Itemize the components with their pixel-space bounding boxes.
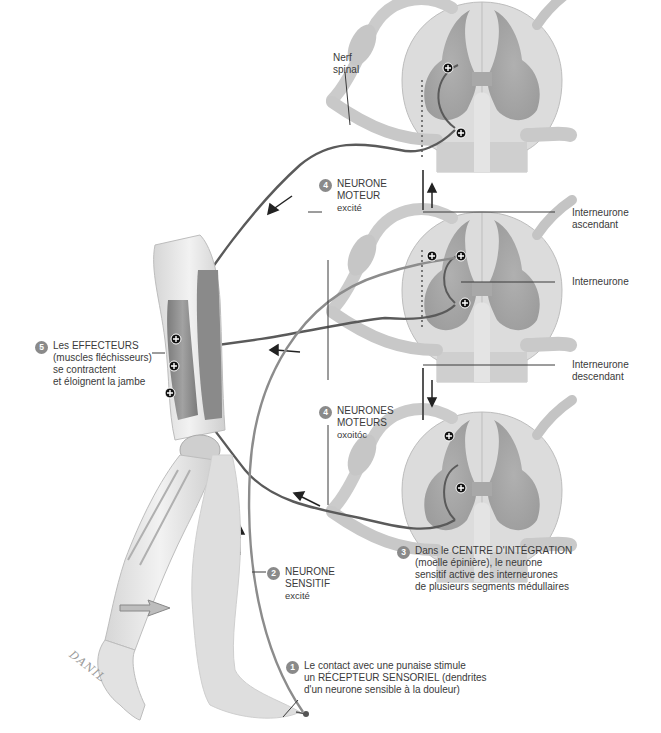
step-badge: 3 xyxy=(397,546,410,559)
step-badge: 4 xyxy=(319,406,332,419)
step-badge: 1 xyxy=(286,661,299,674)
label-interneurone: Interneurone xyxy=(572,276,629,288)
label-nerf-spinal: Nerf spinal xyxy=(333,52,359,76)
step-badge: 4 xyxy=(319,179,332,192)
label-interneurone-descendant: Interneurone descendant xyxy=(572,359,629,383)
step-badge: 5 xyxy=(35,341,48,354)
label-interneurone-ascendant: Interneurone ascendant xyxy=(572,207,629,231)
spinal-segment-middle xyxy=(332,200,572,382)
step-badge: 2 xyxy=(267,567,280,580)
